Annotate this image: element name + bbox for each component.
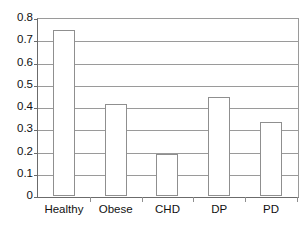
x-axis-tick <box>297 197 298 202</box>
x-axis-category-label: Healthy <box>44 203 83 217</box>
y-axis-tick-label: 0.4 <box>3 101 33 113</box>
bar-chart: 00.10.20.30.40.50.60.70.8 HealthyObeseCH… <box>0 0 303 230</box>
bar-slot <box>38 18 90 196</box>
bar <box>105 104 127 196</box>
bars-layer <box>38 18 297 196</box>
x-axis-tick <box>193 197 194 202</box>
x-axis-tick <box>245 197 246 202</box>
x-axis-category-label: PD <box>263 203 279 217</box>
y-axis-tick-label: 0.5 <box>3 79 33 91</box>
bar-slot <box>142 18 194 196</box>
y-axis-tick-label: 0.8 <box>3 12 33 24</box>
y-axis-tick-label: 0.6 <box>3 57 33 69</box>
y-axis-tick-label: 0.7 <box>3 35 33 47</box>
y-axis-tick-label: 0.2 <box>3 146 33 158</box>
y-axis-tick-label: 0.3 <box>3 124 33 136</box>
y-axis-tick-label: 0.1 <box>3 168 33 180</box>
x-axis-category-label: DP <box>211 203 227 217</box>
x-axis-tick <box>90 197 91 202</box>
bar-slot <box>193 18 245 196</box>
x-axis-labels: HealthyObeseCHDDPPD <box>38 203 297 221</box>
bar <box>208 97 230 196</box>
x-axis-tick <box>142 197 143 202</box>
x-axis-category-label: CHD <box>155 203 180 217</box>
bar <box>53 30 75 196</box>
y-axis-labels: 00.10.20.30.40.50.60.70.8 <box>0 18 33 196</box>
bar <box>156 154 178 196</box>
bar <box>260 122 282 196</box>
x-axis-category-label: Obese <box>99 203 133 217</box>
bar-slot <box>245 18 297 196</box>
y-axis-tick-label: 0 <box>3 190 33 202</box>
bar-slot <box>90 18 142 196</box>
